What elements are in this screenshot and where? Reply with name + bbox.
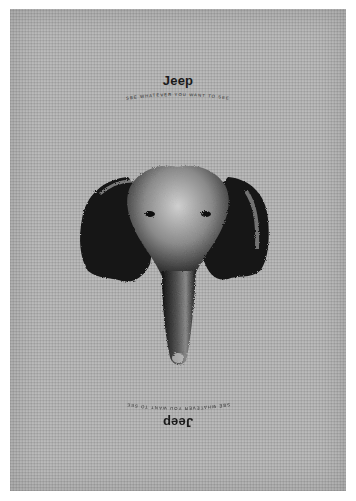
tagline-bottom: SEE WHATEVER YOU WANT TO SEE [10,400,346,414]
svg-text:SEE WHATEVER YOU WANT TO SEE: SEE WHATEVER YOU WANT TO SEE [126,402,231,411]
tagline-bottom-text: SEE WHATEVER YOU WANT TO SEE [126,402,231,411]
poster: Jeep SEE WHATEVER YOU WANT TO SEE [10,9,346,491]
jeep-logo-bottom: Jeep [10,415,346,430]
